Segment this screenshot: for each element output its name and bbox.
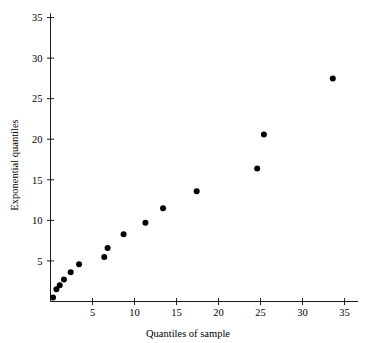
data-point [254,165,260,171]
x-tick-label: 35 [339,307,350,318]
x-tick-label: 10 [129,307,140,318]
data-point [142,220,148,226]
y-tick-label: 30 [32,53,43,64]
x-tick-label: 20 [213,307,224,318]
scatter-plot-canvas: 5101520253035 5101520253035 Quantiles of… [0,0,377,343]
y-tick-label: 5 [37,256,42,267]
data-point [101,254,107,260]
x-tick-label: 30 [297,307,308,318]
y-tick-label: 35 [32,12,43,23]
data-point [57,282,63,288]
x-tick-label: 15 [171,307,182,318]
data-point [160,205,166,211]
data-point [121,231,127,237]
y-axis-title: Exponential quantiles [9,119,20,210]
data-point [105,245,111,251]
data-points-layer [50,75,336,300]
data-point [76,261,82,267]
x-axis-title: Quantiles of sample [146,328,230,339]
y-tick-label: 10 [32,215,43,226]
y-tick-label: 25 [32,93,43,104]
data-point [330,75,336,81]
data-point [61,277,67,283]
data-point [194,188,200,194]
x-tick-label: 25 [255,307,266,318]
data-point [261,131,267,137]
y-tick-label: 15 [32,175,43,186]
data-point [68,269,74,275]
x-tick-label: 5 [90,307,95,318]
x-axis-ticks: 5101520253035 [90,298,350,318]
y-tick-label: 20 [32,134,43,145]
qq-plot-figure: 5101520253035 5101520253035 Quantiles of… [0,0,377,343]
data-point [50,294,56,300]
